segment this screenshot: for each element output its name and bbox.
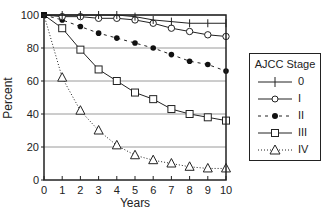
- y-tick-label: 100: [21, 9, 39, 21]
- x-tick-label: 6: [150, 184, 156, 196]
- legend-item-stage-i: I: [250, 91, 320, 107]
- open-circle-marker-icon: [258, 91, 294, 107]
- data-series: [41, 11, 231, 172]
- legend: AJCC Stage 0 I II III IV: [249, 53, 321, 161]
- y-axis-title: Percent: [1, 77, 15, 119]
- legend-title: AJCC Stage: [250, 58, 320, 70]
- y-tick-label: 0: [33, 174, 39, 186]
- open-triangle-marker-icon: [258, 142, 294, 158]
- y-tick-label: 80: [27, 42, 39, 54]
- legend-label: 0: [298, 75, 304, 87]
- y-tick-label: 20: [27, 141, 39, 153]
- legend-item-stage-iii: III: [250, 125, 320, 141]
- gridlines: [44, 15, 226, 147]
- legend-item-stage-ii: II: [250, 108, 320, 124]
- legend-item-stage-0: 0: [250, 74, 320, 90]
- series-stage-0: [44, 11, 226, 27]
- legend-label: II: [298, 109, 304, 121]
- x-tick-label: 9: [205, 184, 211, 196]
- y-tick-label: 60: [27, 75, 39, 87]
- x-tick-label: 8: [187, 184, 193, 196]
- legend-label: I: [298, 92, 301, 104]
- y-tick-label: 40: [27, 108, 39, 120]
- x-tick-label: 0: [41, 184, 47, 196]
- x-tick-label: 7: [168, 184, 174, 196]
- x-tick-label: 1: [59, 184, 65, 196]
- x-tick-label: 10: [220, 184, 232, 196]
- x-tick-label: 4: [114, 184, 120, 196]
- plus-marker-icon: [258, 74, 294, 90]
- x-axis-title: Years: [120, 196, 150, 210]
- legend-label: III: [298, 126, 307, 138]
- x-tick-label: 2: [77, 184, 83, 196]
- filled-circle-marker-icon: [258, 108, 294, 124]
- x-tick-label: 3: [96, 184, 102, 196]
- series-stage-iii: [44, 15, 230, 124]
- open-square-marker-icon: [258, 125, 294, 141]
- legend-label: IV: [298, 143, 308, 155]
- legend-item-stage-iv: IV: [250, 142, 320, 158]
- x-tick-label: 5: [132, 184, 138, 196]
- series-stage-ii: [44, 15, 229, 74]
